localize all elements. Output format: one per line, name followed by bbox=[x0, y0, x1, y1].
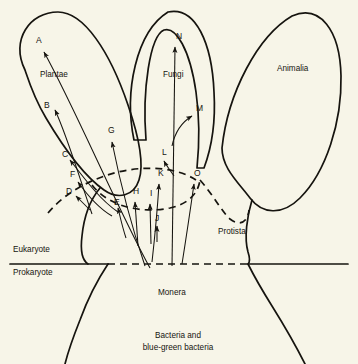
kingdom-label-animalia: Animalia bbox=[277, 64, 309, 73]
arrow-N bbox=[172, 47, 175, 266]
diagram-root: Plantae Fungi Animalia Protista Monera E… bbox=[0, 0, 358, 364]
arrow-label-H: H bbox=[133, 186, 139, 196]
arrow-C bbox=[70, 160, 118, 212]
base-caption-line1: Bacteria and bbox=[155, 331, 201, 340]
arrow-A bbox=[44, 52, 150, 268]
arrow-O bbox=[182, 184, 194, 264]
kingdom-label-monera: Monera bbox=[158, 288, 186, 297]
animalia-lobe-outline bbox=[222, 13, 341, 211]
base-caption-line2: blue-green bacteria bbox=[143, 343, 214, 352]
cell-type-label-eukaryote: Eukaryote bbox=[13, 245, 50, 254]
arrow-label-K: K bbox=[158, 168, 164, 178]
arrow-label-G: G bbox=[108, 125, 115, 135]
arrow-label-I: I bbox=[150, 188, 152, 198]
arrow-label-M: M bbox=[196, 103, 203, 113]
protista-right-flank bbox=[248, 264, 305, 364]
kingdom-label-protista: Protista bbox=[218, 227, 246, 236]
arrow-label-F: F bbox=[70, 169, 75, 179]
arrow-label-B: B bbox=[44, 100, 50, 110]
arrow-label-N: N bbox=[176, 31, 182, 41]
arrow-label-O: O bbox=[194, 168, 201, 178]
arrow-M bbox=[172, 116, 192, 146]
arrow-label-D: D bbox=[66, 186, 72, 196]
arrow-L bbox=[164, 161, 174, 176]
arrow-label-C: C bbox=[62, 149, 68, 159]
monera-base-left bbox=[65, 264, 108, 364]
arrow-label-L: L bbox=[162, 147, 167, 157]
animalia-stem bbox=[246, 200, 252, 264]
kingdom-label-fungi: Fungi bbox=[163, 70, 184, 79]
arrow-label-A: A bbox=[36, 35, 42, 45]
arrow-K bbox=[152, 184, 159, 262]
phylogeny-figure: Plantae Fungi Animalia Protista Monera E… bbox=[0, 0, 358, 364]
cell-type-label-prokaryote: Prokaryote bbox=[13, 268, 53, 277]
kingdom-label-plantae: Plantae bbox=[40, 70, 68, 79]
arrow-label-E: E bbox=[114, 197, 120, 207]
arrow-label-J: J bbox=[155, 213, 159, 223]
plantae-stem bbox=[81, 188, 100, 264]
arrow-B bbox=[55, 110, 92, 214]
